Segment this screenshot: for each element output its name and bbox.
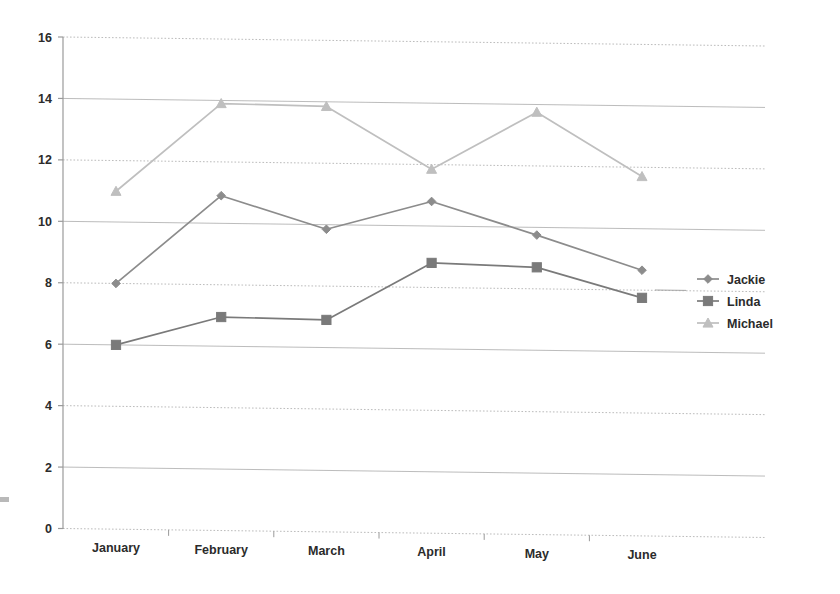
y-axis-tick-label: 6 [45,338,52,352]
gridline [63,344,765,353]
legend-marker-linda [703,296,712,305]
y-axis-tick-label: 8 [45,276,52,290]
legend-label-jackie: Jackie [727,273,765,287]
gridline [63,221,765,230]
data-point-marker [533,231,542,240]
data-point-marker [637,172,647,181]
data-series-linda [111,258,646,349]
scan-artifact-speck [0,497,9,502]
data-point-marker [638,266,647,275]
data-point-marker [427,197,436,206]
legend-label-michael: Michael [727,317,773,331]
x-axis-category-label: January [92,541,140,555]
data-point-marker [427,164,437,173]
x-axis-category-label: April [417,545,445,559]
data-point-marker [427,258,436,267]
x-axis-category-label: June [627,548,656,562]
chart-canvas: 0246810121416 JanuaryFebruaryMarchAprilM… [0,0,840,594]
series-line [116,104,642,192]
x-axis-ticks [169,530,590,541]
line-chart: 0246810121416 JanuaryFebruaryMarchAprilM… [0,0,840,594]
y-axis-tick-label: 4 [45,399,52,413]
y-axis-tick-label: 10 [38,215,52,229]
gridline [63,467,765,476]
x-axis-category-label: May [525,547,549,561]
data-point-marker [322,225,331,234]
chart-legend: JackieLindaMichael [655,273,773,331]
y-axis-tick-label: 14 [38,92,52,106]
series-line [116,196,642,284]
series-layer [111,99,647,350]
gridline [63,98,765,107]
gridline [63,160,765,169]
x-axis-category-label: March [308,544,345,558]
y-axis-tick-label: 0 [45,522,52,536]
y-axis-tick-label: 12 [38,153,52,167]
gridline [63,37,765,46]
data-point-marker [322,315,331,324]
data-series-jackie [112,191,647,287]
data-point-marker [637,293,646,302]
x-axis-category-label: February [194,543,248,557]
series-line [116,263,642,345]
data-series-michael [111,99,647,196]
data-point-marker [217,312,226,321]
y-axis-tick-label: 2 [45,461,52,475]
legend-label-linda: Linda [727,295,761,309]
gridlines [63,37,765,538]
data-point-marker [532,263,541,272]
data-point-marker [111,340,120,349]
gridline [63,406,765,415]
data-point-marker [532,107,542,116]
y-axis-tick-labels: 0246810121416 [38,31,52,537]
y-axis-tick-label: 16 [38,31,52,45]
legend-marker-jackie [704,275,713,284]
x-axis-category-labels: JanuaryFebruaryMarchAprilMayJune [92,541,657,562]
y-axis-ticks [58,37,63,529]
